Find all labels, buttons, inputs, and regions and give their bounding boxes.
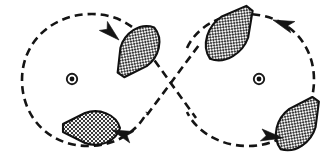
- diagram-canvas: [0, 0, 334, 167]
- vessel-lower-left-outline: [63, 111, 120, 144]
- right-pivot-marker: [254, 74, 264, 84]
- vessel-lower-left: [63, 111, 120, 144]
- vessel-upper-left: [106, 17, 168, 85]
- figure-eight-diagram: [0, 0, 334, 167]
- direction-arrow-upper-left-head: [99, 21, 123, 44]
- vessel-lower-right: [266, 89, 330, 159]
- vessel-upper-right-outline: [195, 0, 264, 70]
- vessel-upper-right: [195, 0, 264, 70]
- vessel-lower-right-outline: [266, 89, 330, 159]
- vessel-upper-left-outline: [106, 17, 168, 85]
- left-pivot-marker: [67, 74, 77, 84]
- direction-arrow-upper-left: [99, 21, 123, 44]
